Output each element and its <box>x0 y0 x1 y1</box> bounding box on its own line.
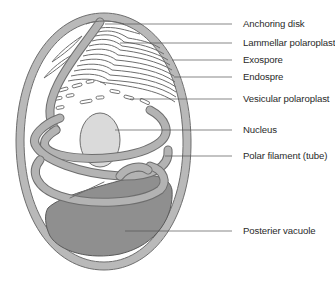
label-nucleus: Nucleus <box>243 124 277 135</box>
label-lammellar-polaroplast: Lammellar polaroplast <box>243 37 335 48</box>
label-posterier-vacuole: Posterier vacuole <box>243 225 315 236</box>
label-vesicular-polaroplast: Vesicular polaroplast <box>243 93 329 104</box>
label-endospre: Endospre <box>243 71 283 82</box>
label-polar-filament: Polar filament (tube) <box>243 150 327 161</box>
label-exospore: Exospore <box>243 54 283 65</box>
label-anchoring-disk: Anchoring disk <box>243 18 305 29</box>
